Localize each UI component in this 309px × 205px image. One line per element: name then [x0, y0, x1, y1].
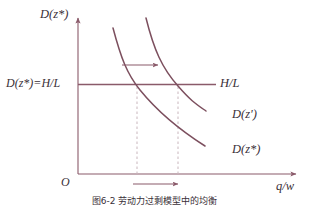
base-demand-curve-label: D(z*) — [232, 143, 260, 156]
base-demand-curve — [113, 28, 205, 146]
figure-container: D(z*) q/w O D(z*)=H/L H/L D(z') D(z*) 图6… — [0, 0, 309, 205]
y-axis-label: D(z*) — [40, 8, 68, 21]
equilibrium-line-left-label: D(z*)=H/L — [6, 77, 60, 89]
figure-caption: 图6-2 劳动力过剩模型中的均衡 — [0, 196, 309, 205]
equilibrium-line-right-label: H/L — [220, 77, 239, 90]
origin-label: O — [61, 176, 70, 188]
shifted-demand-curve-label: D(z') — [232, 108, 257, 121]
diagram-canvas — [0, 0, 309, 205]
x-axis-label: q/w — [276, 180, 294, 193]
